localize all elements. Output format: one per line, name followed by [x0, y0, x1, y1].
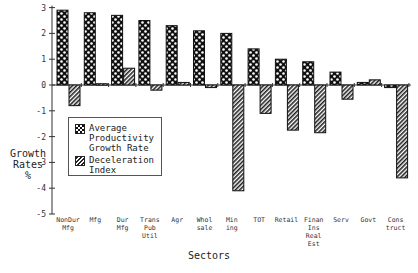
y-title-line: Growth: [6, 148, 50, 159]
legend-label: Growth Rate: [89, 143, 154, 153]
bar-productivity: [194, 31, 205, 85]
legend-item-productivity: Average Productivity Growth Rate: [75, 123, 154, 153]
bar-deceleration: [233, 85, 244, 191]
bar-productivity: [57, 10, 68, 85]
svg-text:Min: Min: [226, 216, 238, 224]
svg-text:3: 3: [41, 4, 46, 13]
legend-label: Deceleration: [89, 155, 154, 165]
legend-label: Index: [89, 165, 154, 175]
bar-productivity: [139, 21, 150, 86]
bar-deceleration: [342, 85, 353, 99]
bar-deceleration: [96, 84, 107, 86]
svg-text:0: 0: [41, 81, 46, 90]
svg-text:TOT: TOT: [253, 216, 265, 224]
svg-text:Mfg: Mfg: [89, 216, 101, 224]
svg-text:Whol: Whol: [197, 216, 213, 224]
svg-text:2: 2: [41, 29, 46, 38]
legend-label: Average: [89, 123, 154, 133]
bar-productivity: [248, 49, 259, 85]
hatch-swatch-icon: [75, 156, 85, 166]
svg-text:1: 1: [41, 55, 46, 64]
svg-text:Finan: Finan: [304, 216, 324, 224]
bar-deceleration: [206, 85, 217, 88]
bar-chart: 3210-1-2-3-4-5 NonDurMfgMfgDurMfgTransPu…: [0, 0, 418, 273]
bar-deceleration: [178, 82, 189, 85]
y-title-line: %: [6, 170, 50, 181]
bar-productivity: [221, 33, 232, 85]
bar-deceleration: [287, 85, 298, 130]
svg-text:Pub: Pub: [144, 224, 156, 232]
y-axis-title: Growth Rates %: [6, 148, 50, 181]
bar-productivity: [112, 15, 123, 85]
svg-text:-2: -2: [36, 133, 46, 142]
svg-text:Util: Util: [142, 232, 158, 240]
svg-text:Est: Est: [308, 240, 320, 248]
svg-text:-5: -5: [36, 210, 46, 219]
svg-text:Serv: Serv: [333, 216, 349, 224]
x-axis-title: Sectors: [0, 250, 418, 261]
bar-productivity: [303, 62, 314, 85]
bar-deceleration: [397, 85, 408, 178]
checker-swatch-icon: [75, 124, 85, 134]
svg-text:truct: truct: [386, 224, 406, 232]
bar-deceleration: [369, 80, 380, 85]
legend: Average Productivity Growth Rate Deceler…: [68, 117, 162, 176]
bar-deceleration: [315, 85, 326, 133]
bar-productivity: [357, 82, 368, 85]
svg-text:NonDur: NonDur: [56, 216, 80, 224]
svg-text:Mfg: Mfg: [117, 224, 129, 232]
bar-productivity: [330, 72, 341, 85]
legend-item-deceleration: Deceleration Index: [75, 155, 154, 175]
svg-text:Mfg: Mfg: [62, 224, 74, 232]
svg-text:-1: -1: [36, 107, 46, 116]
svg-text:-4: -4: [36, 184, 46, 193]
bar-deceleration: [124, 68, 135, 85]
svg-text:Govt: Govt: [360, 216, 376, 224]
bar-deceleration: [69, 85, 80, 106]
bar-productivity: [84, 13, 95, 85]
svg-text:Trans: Trans: [140, 216, 160, 224]
y-title-line: Rates: [6, 159, 50, 170]
bar-productivity: [166, 26, 177, 85]
legend-label: Productivity: [89, 133, 154, 143]
svg-text:Ins: Ins: [308, 224, 320, 232]
bar-deceleration: [151, 85, 162, 90]
svg-text:Retail: Retail: [275, 216, 299, 224]
svg-text:ing: ing: [226, 224, 238, 232]
bar-deceleration: [260, 85, 271, 113]
svg-text:Agr: Agr: [171, 216, 183, 224]
svg-text:Cons: Cons: [388, 216, 404, 224]
bar-productivity: [275, 59, 286, 85]
svg-text:Real: Real: [306, 232, 322, 240]
x-tick-labels: NonDurMfgMfgDurMfgTransPubUtilAgrWholsal…: [56, 216, 405, 248]
svg-text:Dur: Dur: [117, 216, 129, 224]
svg-text:sale: sale: [197, 224, 213, 232]
bar-productivity: [385, 85, 396, 88]
